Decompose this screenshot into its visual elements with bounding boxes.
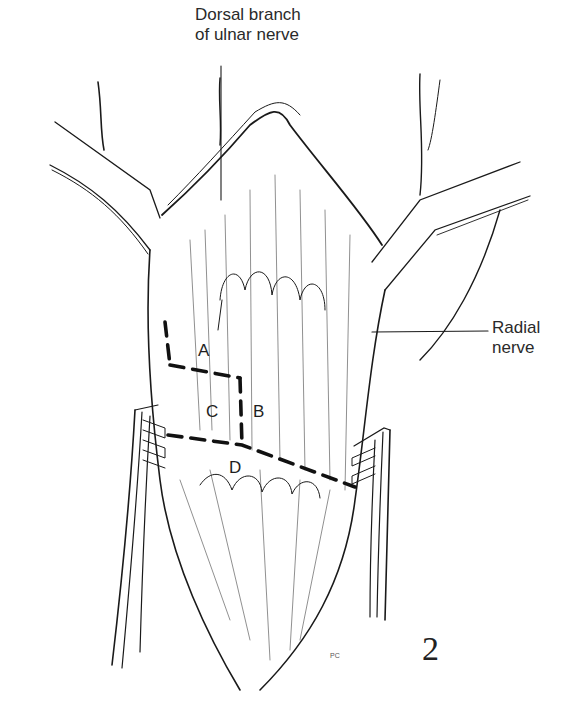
dorsal-branch-ulnar-nerve-label: Dorsal branch of ulnar nerve <box>195 5 301 45</box>
forearm-dorsal-exposure-drawing <box>0 0 571 703</box>
radial-nerve-label: Radial nerve <box>492 318 540 358</box>
surgical-illustration: Dorsal branch of ulnar nerve Radial nerv… <box>0 0 571 703</box>
region-b-label: B <box>253 402 264 422</box>
dorsal-branch-label-line1: Dorsal branch <box>195 5 301 25</box>
radial-nerve-label-line1: Radial <box>492 318 540 338</box>
radial-nerve-label-line2: nerve <box>492 338 540 358</box>
dorsal-branch-label-line2: of ulnar nerve <box>195 25 301 45</box>
artist-signature: PC <box>330 652 340 659</box>
figure-number: 2 <box>422 630 439 668</box>
region-a-label: A <box>198 341 209 361</box>
region-c-label: C <box>206 402 218 422</box>
region-d-label: D <box>229 458 241 478</box>
